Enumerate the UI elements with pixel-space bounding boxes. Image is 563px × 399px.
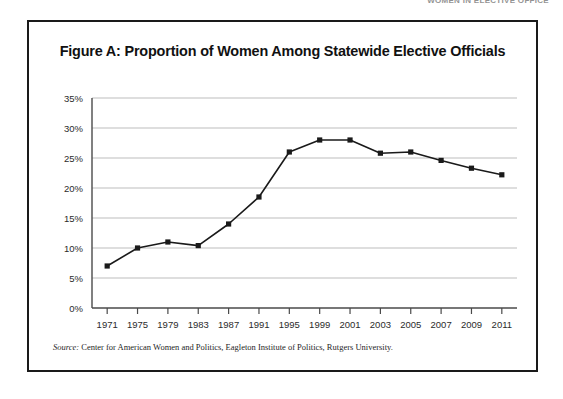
- x-tick-label: 1979: [157, 319, 178, 330]
- x-tick-label: 2003: [370, 319, 391, 330]
- x-tick-label: 1987: [218, 319, 239, 330]
- y-tick-label: 15%: [64, 213, 84, 224]
- y-tick-label: 25%: [64, 153, 84, 164]
- page-header: WOMEN IN ELECTIVE OFFICE: [427, 0, 549, 3]
- data-point-marker: [287, 149, 292, 154]
- data-point-marker: [347, 137, 352, 142]
- figure-frame: Figure A: Proportion of Women Among Stat…: [27, 20, 538, 372]
- y-tick-label: 20%: [64, 183, 84, 194]
- y-tick-label: 35%: [64, 93, 84, 104]
- x-tick-label: 1971: [97, 319, 118, 330]
- data-point-marker: [499, 172, 504, 177]
- data-point-marker: [256, 194, 261, 199]
- data-point-marker: [165, 239, 170, 244]
- data-point-marker: [408, 149, 413, 154]
- chart-svg: 0%5%10%15%20%25%30%35% 19711975197919831…: [29, 22, 540, 374]
- x-tick-label: 1983: [188, 319, 209, 330]
- x-tick-label: 2009: [461, 319, 482, 330]
- x-tick-label: 1999: [309, 319, 330, 330]
- data-point-marker: [469, 166, 474, 171]
- source-label: Source:: [53, 342, 79, 352]
- data-point-marker: [105, 263, 110, 268]
- x-tick-label: 2001: [339, 319, 360, 330]
- data-point-marker: [135, 245, 140, 250]
- source-note: Source: Center for American Women and Po…: [53, 342, 518, 352]
- x-axis: [92, 308, 517, 314]
- y-tick-label: 10%: [64, 243, 84, 254]
- x-tick-label: 1975: [127, 319, 148, 330]
- data-series-markers: [105, 137, 505, 268]
- data-point-marker: [439, 158, 444, 163]
- line-chart: 0%5%10%15%20%25%30%35% 19711975197919831…: [29, 22, 540, 374]
- x-tick-label: 1995: [279, 319, 300, 330]
- source-text: Center for American Women and Politics, …: [79, 342, 393, 352]
- data-point-marker: [226, 221, 231, 226]
- y-tick-label: 30%: [64, 123, 84, 134]
- x-tick-label: 2011: [492, 319, 512, 330]
- y-tick-label: 5%: [69, 273, 83, 284]
- y-axis-tick-labels: 0%5%10%15%20%25%30%35%: [64, 93, 84, 314]
- gridlines: [92, 98, 517, 278]
- data-point-marker: [378, 151, 383, 156]
- x-axis-tick-labels: 1971197519791983198719911995199920012003…: [97, 319, 512, 330]
- x-tick-label: 1991: [248, 319, 269, 330]
- data-point-marker: [196, 243, 201, 248]
- data-point-marker: [317, 137, 322, 142]
- y-tick-label: 0%: [69, 303, 83, 314]
- x-tick-label: 2007: [431, 319, 452, 330]
- x-tick-label: 2005: [400, 319, 421, 330]
